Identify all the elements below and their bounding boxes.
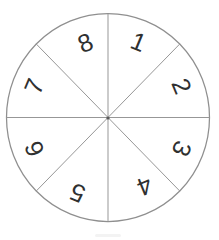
spinner-figure: 12345678 bbox=[0, 0, 219, 240]
center-dot bbox=[106, 116, 109, 119]
spinner-wheel: 12345678 bbox=[0, 0, 219, 240]
scan-artifact-bottom bbox=[95, 234, 121, 237]
